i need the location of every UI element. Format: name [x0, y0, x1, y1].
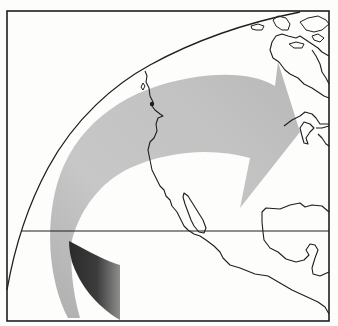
arctic-island — [273, 16, 290, 30]
arctic-island — [300, 16, 329, 32]
map-canvas — [0, 0, 338, 326]
map-illustration — [0, 0, 338, 326]
coastal-island — [141, 83, 145, 90]
arctic-island — [312, 34, 324, 42]
gulf-of-mexico-coast — [262, 203, 329, 276]
arctic-island — [289, 42, 304, 48]
arctic-island — [251, 24, 264, 30]
baja-california — [183, 193, 206, 233]
migration-arrow — [50, 62, 300, 320]
coastal-island — [150, 102, 154, 106]
